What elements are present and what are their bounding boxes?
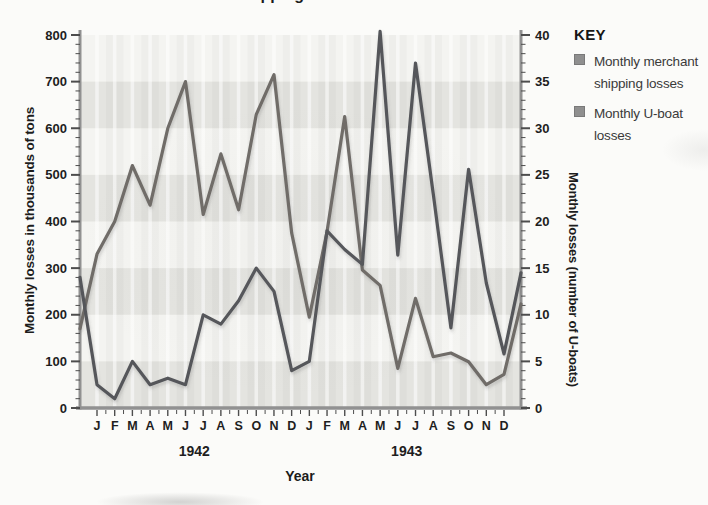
svg-text:M: M	[340, 419, 350, 433]
svg-text:M: M	[127, 419, 137, 433]
svg-text:30: 30	[535, 121, 549, 136]
svg-text:600: 600	[45, 121, 67, 136]
svg-text:200: 200	[45, 307, 67, 322]
svg-text:20: 20	[535, 214, 549, 229]
scanned-textbook-page: Merchant shipping losses 010020030040050…	[0, 0, 708, 505]
legend: KEY Monthly merchant shipping losses Mon…	[574, 26, 704, 154]
legend-key-heading: KEY	[574, 26, 704, 43]
svg-text:N: N	[482, 419, 491, 433]
svg-text:1943: 1943	[391, 443, 422, 459]
svg-text:100: 100	[45, 354, 67, 369]
svg-text:0: 0	[60, 401, 67, 416]
legend-item-label: Monthly merchant shipping losses	[594, 51, 704, 96]
svg-text:D: D	[499, 419, 508, 433]
right-axis-title: Monthly losses (number of U-boats)	[566, 155, 581, 405]
svg-text:S: S	[234, 419, 242, 433]
svg-text:F: F	[323, 419, 331, 433]
legend-item-label: Monthly U-boat losses	[594, 103, 704, 148]
x-axis-title: Year	[220, 468, 380, 484]
svg-text:300: 300	[45, 261, 67, 276]
svg-text:35: 35	[535, 74, 549, 89]
svg-text:F: F	[111, 419, 119, 433]
svg-text:O: O	[464, 419, 474, 433]
legend-item-merchant: Monthly merchant shipping losses	[574, 51, 704, 96]
uboat-series-swatch-icon	[574, 106, 585, 117]
svg-text:N: N	[269, 419, 278, 433]
svg-text:M: M	[163, 419, 173, 433]
svg-text:J: J	[306, 419, 313, 433]
legend-item-uboat: Monthly U-boat losses	[574, 103, 704, 148]
svg-text:M: M	[375, 419, 385, 433]
svg-text:S: S	[447, 419, 455, 433]
svg-text:J: J	[182, 419, 189, 433]
svg-text:700: 700	[45, 74, 67, 89]
svg-text:A: A	[358, 419, 367, 433]
svg-text:A: A	[429, 419, 438, 433]
svg-text:J: J	[94, 419, 101, 433]
svg-text:15: 15	[535, 261, 549, 276]
svg-text:1942: 1942	[179, 443, 210, 459]
svg-text:500: 500	[45, 167, 67, 182]
svg-text:J: J	[394, 419, 401, 433]
svg-text:5: 5	[535, 354, 542, 369]
merchant-series-swatch-icon	[574, 54, 585, 65]
svg-text:O: O	[251, 419, 261, 433]
svg-text:J: J	[200, 419, 207, 433]
svg-text:0: 0	[535, 401, 542, 416]
svg-text:25: 25	[535, 167, 549, 182]
svg-text:D: D	[287, 419, 296, 433]
svg-text:A: A	[216, 419, 225, 433]
svg-text:A: A	[146, 419, 155, 433]
left-axis-title: Monthly losses in thousands of tons	[22, 106, 37, 336]
svg-text:400: 400	[45, 214, 67, 229]
svg-text:800: 800	[45, 28, 67, 43]
svg-text:J: J	[412, 419, 419, 433]
svg-text:10: 10	[535, 307, 549, 322]
svg-text:40: 40	[535, 28, 549, 43]
